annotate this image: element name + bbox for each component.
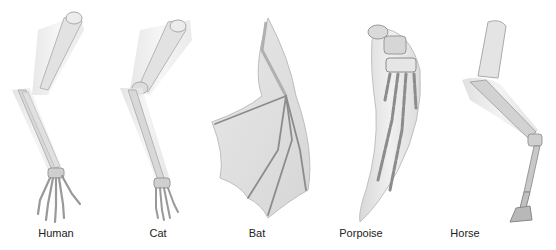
bat-wing [212, 18, 310, 218]
label-cat: Cat [118, 227, 198, 239]
limbs-illustration [0, 0, 556, 250]
human-arm [12, 12, 84, 222]
porpoise-flipper [360, 25, 421, 222]
cat-leg [120, 20, 192, 220]
label-horse: Horse [425, 227, 505, 239]
label-porpoise: Porpoise [321, 227, 401, 239]
label-bat: Bat [217, 227, 297, 239]
horse-leg [462, 21, 542, 222]
label-human: Human [16, 227, 96, 239]
homologous-limbs-figure: Human Cat Bat Porpoise Horse [0, 0, 556, 250]
